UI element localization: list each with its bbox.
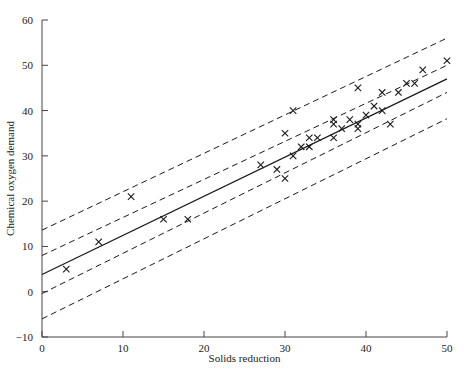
x-axis-label: Solids reduction bbox=[209, 352, 281, 364]
x-tick-label-40: 40 bbox=[361, 342, 373, 354]
y-tick-label-10: 10 bbox=[22, 240, 34, 252]
y-tick-label-60: 60 bbox=[22, 14, 34, 26]
chart-figure: −10010203040506001020304050 Solids reduc… bbox=[0, 0, 464, 375]
y-tick-label-40: 40 bbox=[22, 105, 34, 117]
y-tick-label-50: 50 bbox=[22, 59, 34, 71]
x-tick-label-30: 30 bbox=[280, 342, 292, 354]
scatter-plot-canvas: −10010203040506001020304050 Solids reduc… bbox=[0, 0, 464, 375]
y-axis-label: Chemical oxygen demand bbox=[4, 121, 16, 236]
x-tick-label-0: 0 bbox=[39, 342, 45, 354]
x-tick-label-50: 50 bbox=[442, 342, 454, 354]
x-tick-label-10: 10 bbox=[118, 342, 130, 354]
y-tick-label-20: 20 bbox=[22, 195, 34, 207]
y-tick-label-0: 0 bbox=[28, 286, 34, 298]
y-tick-label-30: 30 bbox=[22, 150, 34, 162]
plot-background bbox=[0, 0, 464, 375]
y-tick-label--10: −10 bbox=[16, 331, 34, 343]
